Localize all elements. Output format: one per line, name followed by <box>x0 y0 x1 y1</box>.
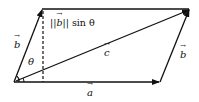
label-vector-c: c <box>104 48 110 58</box>
label-vector-a: a <box>87 88 93 98</box>
label-vector-b-right: b <box>180 50 186 60</box>
label-angle-theta: θ <box>28 57 34 67</box>
vector-parallelogram-diagram: b θ ||b|| sin θ c b a <box>0 0 199 102</box>
vector-c-arrow <box>16 10 189 81</box>
label-vector-b-left: b <box>14 40 20 50</box>
label-height-norm: ||b|| sin θ <box>50 18 95 28</box>
diagram-lines <box>0 0 199 102</box>
